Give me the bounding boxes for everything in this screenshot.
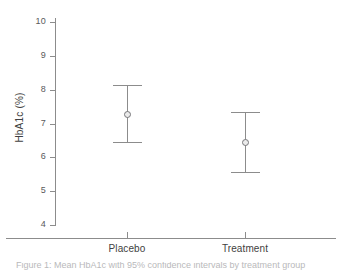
y-tick-mark — [50, 90, 55, 91]
y-tick-label: 10 — [6, 17, 46, 26]
y-tick-label: 6 — [6, 152, 46, 161]
y-tick-mark — [50, 22, 55, 23]
y-tick-mark — [50, 191, 55, 192]
errorbar-lower-cap — [113, 142, 142, 143]
x-tick-label-treatment: Treatment — [185, 243, 305, 255]
x-tick-mark — [127, 232, 128, 238]
y-tick-label: 4 — [6, 220, 46, 229]
data-point-marker — [124, 111, 131, 118]
y-tick-label: 9 — [6, 51, 46, 60]
errorbar-lower-cap — [231, 172, 260, 173]
x-tick-mark — [245, 232, 246, 238]
figure-caption: Figure 1: Mean HbA1c with 95% confidence… — [0, 262, 345, 271]
y-tick-mark — [50, 56, 55, 57]
y-tick-mark — [50, 124, 55, 125]
y-tick-mark — [50, 225, 55, 226]
y-tick-label: 5 — [6, 186, 46, 195]
x-tick-label-placebo: Placebo — [67, 243, 187, 255]
x-axis-line — [6, 238, 336, 239]
y-axis-line — [55, 18, 56, 226]
y-tick-label: 8 — [6, 85, 46, 94]
figure-caption-text: Figure 1: Mean HbA1c with 95% confidence… — [16, 262, 336, 271]
data-point-marker — [242, 139, 249, 146]
chart-container: HbA1c (%) 10 9 8 7 6 5 4 Placebo Treatme… — [0, 0, 345, 271]
y-tick-label: 7 — [6, 119, 46, 128]
y-tick-mark — [50, 157, 55, 158]
